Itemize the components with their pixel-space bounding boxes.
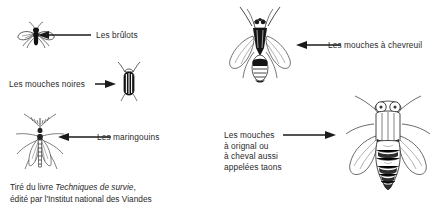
label-taons-line-4: appelées taons: [224, 162, 282, 173]
label-brulots: Les brûlots: [96, 30, 138, 41]
label-maringouins: Les maringouins: [97, 132, 159, 143]
label-taons-line-3: à cheval aussi: [224, 151, 282, 162]
label-taons-line-1: Les mouches: [224, 130, 282, 141]
label-mouches-noires: Les mouches noires: [9, 79, 85, 90]
caption-suffix: ,: [133, 182, 135, 192]
caption-line-1: Tiré du livre Techniques de survie,: [10, 182, 152, 194]
label-taons-line-2: à orignal ou: [224, 141, 282, 152]
caption-line-2: édité par l'Institut national des Viande…: [10, 194, 152, 206]
deer-fly-icon: [224, 6, 296, 94]
source-caption: Tiré du livre Techniques de survie, édit…: [10, 182, 152, 205]
black-fly-icon: [115, 62, 143, 104]
horse-fly-icon: [340, 94, 436, 206]
caption-prefix: Tiré du livre: [10, 182, 55, 192]
arrow-mouches-noires: [95, 79, 117, 89]
label-taons: Les mouches à orignal ou à cheval aussi …: [224, 130, 282, 172]
insect-identification-figure: Les brûlots Les mouches noires: [0, 0, 436, 211]
arrow-brulots: [38, 30, 92, 40]
caption-book-title: Techniques de survie: [55, 182, 133, 192]
mosquito-icon: [12, 113, 68, 175]
arrow-taons: [283, 130, 337, 140]
label-mouches-chevreuil: Les mouches à chevreuil: [328, 40, 422, 51]
